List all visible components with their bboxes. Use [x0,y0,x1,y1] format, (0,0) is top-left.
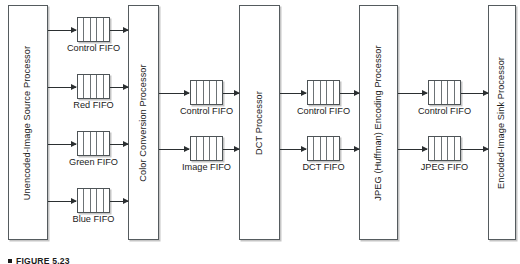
processor-color-conversion-processor: Color Conversion Processor [128,5,159,240]
arrow-control1-to-ccp [110,30,128,31]
arrow-dctfifo-to-jpeg [340,149,359,150]
caption-bullet-icon [8,259,12,263]
arrow-jpeg-to-jpegfifo [398,149,427,150]
fifo-cell [104,132,109,155]
arrow-ccp-to-image [159,149,189,150]
arrow-src-to-blue [48,201,76,202]
arrow-green-to-ccp [110,144,128,145]
arrow-src-to-control1 [48,30,76,31]
fifo-label-fifo-blue: Blue FIFO [54,215,134,224]
processor-label: Unencoded-Image Source Processor [23,45,32,199]
processor-label: DCT Processor [255,91,264,155]
fifo-cell [334,81,339,104]
fifo-label-fifo-red: Red FIFO [54,101,134,110]
fifo-cell [217,81,222,104]
fifo-cell [217,137,222,160]
arrow-dct-to-dctfifo [280,149,306,150]
arrow-jpegfifo-to-sink [461,149,488,150]
arrow-control3-to-jpeg [340,93,359,94]
figure-caption-text: FIGURE 5.23 [16,256,70,264]
fifo-label-fifo-jpeg: JPEG FIFO [405,163,485,172]
arrow-image-to-dct [223,149,239,150]
fifo-queue-fifo-green [77,131,110,156]
arrow-src-to-red [48,87,76,88]
fifo-label-fifo-image: Image FIFO [167,163,247,172]
jpeg-pipeline-diagram: Unencoded-Image Source ProcessorColor Co… [0,0,520,264]
fifo-label-fifo-control-1: Control FIFO [54,44,134,53]
fifo-queue-fifo-control-4 [428,80,461,105]
fifo-cell [104,189,109,212]
fifo-queue-fifo-jpeg [428,136,461,161]
arrow-control4-to-sink [461,93,488,94]
figure-caption: FIGURE 5.23 [8,256,70,264]
processor-dct-processor: DCT Processor [239,5,280,240]
fifo-queue-fifo-dct [307,136,340,161]
fifo-label-fifo-control-3: Control FIFO [284,107,364,116]
fifo-cell [104,18,109,41]
fifo-cell [455,137,460,160]
processor-jpeg-huffman-encoding-processor: JPEG (Huffman) Encoding Processor [359,5,398,240]
fifo-label-fifo-green: Green FIFO [54,158,134,167]
fifo-queue-fifo-control-3 [307,80,340,105]
fifo-queue-fifo-image [190,136,223,161]
fifo-queue-fifo-blue [77,188,110,213]
fifo-queue-fifo-red [77,74,110,99]
processor-label: Color Conversion Processor [139,64,148,182]
arrow-blue-to-ccp [110,201,128,202]
fifo-label-fifo-control-4: Control FIFO [405,107,485,116]
fifo-label-fifo-control-2: Control FIFO [167,107,247,116]
processor-label: JPEG (Huffman) Encoding Processor [374,45,383,200]
fifo-cell [455,81,460,104]
fifo-queue-fifo-control-1 [77,17,110,42]
processor-label: Encoded-Image Sink Processor [497,57,506,189]
arrow-control2-to-dct [223,93,239,94]
fifo-cell [104,75,109,98]
fifo-queue-fifo-control-2 [190,80,223,105]
arrow-red-to-ccp [110,87,128,88]
processor-unencoded-image-source-processor: Unencoded-Image Source Processor [8,5,48,240]
arrow-jpeg-to-control4 [398,93,427,94]
fifo-cell [334,137,339,160]
arrow-src-to-green [48,144,76,145]
fifo-label-fifo-dct: DCT FIFO [284,163,364,172]
arrow-ccp-to-control2 [159,93,189,94]
arrow-dct-to-control3 [280,93,306,94]
processor-encoded-image-sink-processor: Encoded-Image Sink Processor [488,5,516,240]
